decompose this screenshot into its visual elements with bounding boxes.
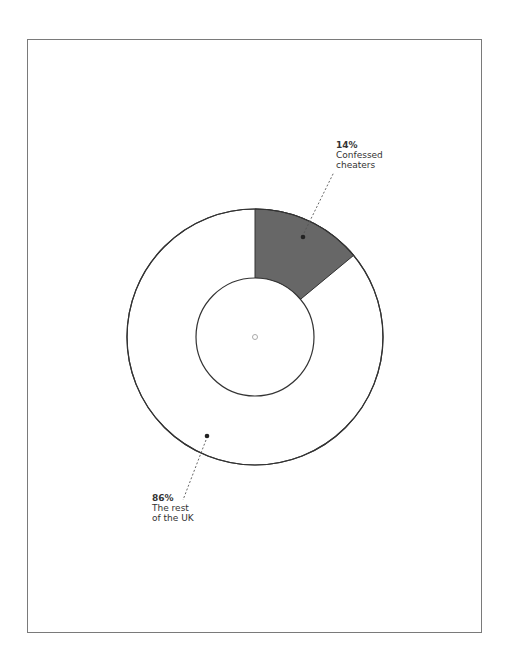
slice1-description: Confessed cheaters <box>336 150 383 170</box>
slice2-description: The rest of the UK <box>152 503 194 523</box>
slice2-label: 86% The rest of the UK <box>152 493 194 523</box>
slice2-percent: 86% <box>152 493 194 503</box>
slice2-dot <box>205 434 210 439</box>
donut-hole <box>196 278 314 396</box>
slice1-dot <box>301 235 306 240</box>
slice1-percent: 14% <box>336 140 383 150</box>
slice1-label: 14% Confessed cheaters <box>336 140 383 170</box>
donut-chart <box>0 0 509 665</box>
